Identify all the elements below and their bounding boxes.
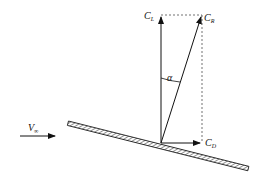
diagram-canvas: CL CR CD α V∞ (0, 0, 270, 182)
alpha-label: α (167, 72, 173, 83)
drag-label: CD (205, 137, 217, 149)
lift-label: CL (144, 10, 155, 22)
resultant-label: CR (204, 12, 215, 24)
force-diagram: CL CR CD α V∞ (0, 0, 270, 182)
freestream-label: V∞ (28, 122, 39, 134)
flat-plate (67, 121, 248, 171)
